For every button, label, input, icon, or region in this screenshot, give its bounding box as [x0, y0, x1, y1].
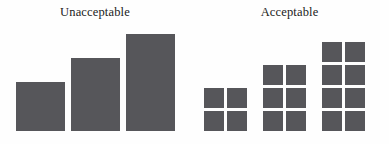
waffle-cell	[263, 65, 283, 85]
waffle-cell	[263, 111, 283, 131]
waffle-cell	[322, 88, 342, 108]
waffle-row	[322, 88, 365, 108]
waffle-group-3	[322, 42, 365, 131]
waffle-row	[263, 88, 306, 108]
waffle-cell	[286, 65, 306, 85]
waffle-cell	[345, 111, 365, 131]
comparison-figure: Unacceptable Acceptable	[0, 0, 389, 144]
bar-chart	[16, 31, 175, 131]
waffle-cell	[322, 65, 342, 85]
waffle-row	[263, 111, 306, 131]
bar-2	[71, 58, 120, 131]
waffle-cell	[322, 42, 342, 62]
panel-unacceptable: Unacceptable	[0, 0, 190, 144]
waffle-cell	[204, 88, 224, 108]
waffle-row	[322, 65, 365, 85]
waffle-cell	[263, 88, 283, 108]
waffle-row	[263, 65, 306, 85]
waffle-cell	[227, 111, 247, 131]
bar-3	[126, 34, 175, 131]
waffle-chart	[204, 25, 365, 131]
panel-title-unacceptable: Unacceptable	[0, 5, 190, 19]
panel-acceptable: Acceptable	[190, 0, 389, 144]
waffle-cell	[286, 111, 306, 131]
waffle-cell	[286, 88, 306, 108]
waffle-cell	[227, 88, 247, 108]
waffle-cell	[322, 111, 342, 131]
waffle-group-2	[263, 65, 306, 131]
waffle-row	[204, 88, 247, 108]
waffle-group-1	[204, 88, 247, 131]
panel-title-acceptable: Acceptable	[190, 5, 389, 19]
waffle-row	[204, 111, 247, 131]
waffle-row	[322, 42, 365, 62]
waffle-cell	[345, 88, 365, 108]
waffle-row	[322, 111, 365, 131]
waffle-cell	[345, 42, 365, 62]
waffle-cell	[345, 65, 365, 85]
bar-1	[16, 82, 65, 131]
waffle-cell	[204, 111, 224, 131]
